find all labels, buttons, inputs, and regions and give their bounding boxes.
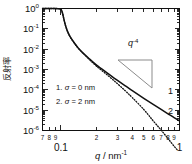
x-tick-label-minor: 6 (151, 134, 155, 141)
x-tick-label-minor: 4 (131, 134, 135, 141)
curve-tag-1: 1 (168, 86, 173, 96)
x-tick-label-minor: 7 (41, 134, 45, 141)
legend-2-value: = 2 nm (69, 97, 95, 106)
reflectivity-chart: 10010-110-210-310-410-510-6 789234567890… (0, 0, 192, 164)
y-tick-label: 100 (25, 2, 40, 14)
x-axis-title-exp: -1 (121, 149, 127, 156)
x-tick-label-minor: 5 (142, 134, 146, 141)
y-tick-label: 10-1 (23, 22, 40, 34)
x-tick-label-minor: 7 (159, 134, 163, 141)
x-tick-label-minor: 3 (116, 134, 120, 141)
y-axis-title: 反射率 (2, 57, 12, 81)
power-law-exponent: -4 (133, 38, 139, 44)
x-tick-label-minor: 9 (54, 134, 58, 141)
curve-tag-2: 2 (168, 106, 173, 116)
y-tick-label: 10-5 (23, 104, 40, 116)
legend-entry-2: 2.σ = 2 nm (56, 97, 95, 106)
x-tick-label-major: 0.1 (54, 142, 68, 153)
series-line-1 (43, 8, 180, 120)
y-tick-label: 10-6 (23, 124, 40, 136)
x-axis-ticks (43, 9, 180, 131)
y-axis-ticks (43, 9, 180, 131)
y-tick-label: 10-2 (23, 43, 40, 55)
legend-entry-1: 1.σ = 0 nm (56, 83, 95, 92)
x-axis-title: q / nm-1 (95, 149, 128, 161)
series-line-2 (43, 8, 178, 150)
y-tick-label: 10-3 (23, 63, 40, 75)
plot-frame (43, 9, 180, 131)
x-tick-label-major: 1 (177, 142, 183, 153)
x-tick-label-minor: 8 (48, 134, 52, 141)
power-law-annotation: q-4 (128, 38, 139, 49)
legend-2-index: 2. (56, 97, 62, 106)
legend-1-value: = 0 nm (69, 83, 95, 92)
y-tick-label: 10-4 (23, 83, 40, 95)
y-axis-tick-labels: 10010-110-210-310-410-510-6 (23, 2, 40, 136)
x-tick-label-minor: 9 (172, 134, 176, 141)
x-axis-title-unit: / nm (100, 150, 121, 161)
x-tick-label-minor: 2 (95, 134, 99, 141)
legend-1-index: 1. (56, 83, 62, 92)
